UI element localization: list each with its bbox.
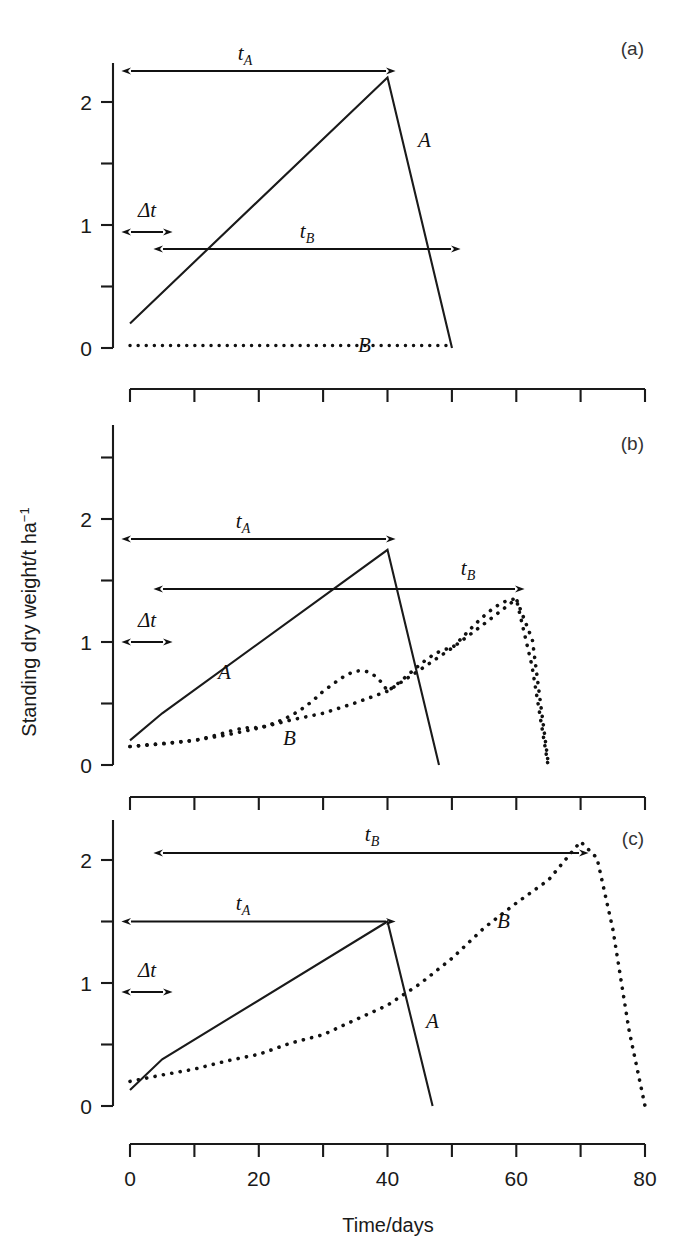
panel-a-label-B: B — [358, 333, 371, 357]
panel-c-xtick-0: 0 — [124, 1167, 136, 1190]
panel-c-label-B: B — [497, 909, 510, 933]
panel-b-ytick-0: 0 — [80, 754, 92, 777]
figure-background — [0, 0, 696, 1254]
y-axis-title: Standing dry weight/t ha−1 — [17, 507, 40, 736]
panel-a-label: (a) — [621, 38, 644, 59]
panel-b-label-A: A — [216, 660, 231, 684]
panel-a-label-A: A — [416, 128, 431, 152]
panel-c-label: (c) — [622, 828, 644, 849]
three-panel-growth-figure: Standing dry weight/t ha−1 (a) 0 1 2 — [0, 0, 696, 1254]
x-axis-title: Time/days — [342, 1214, 434, 1236]
figure-container: Standing dry weight/t ha−1 (a) 0 1 2 — [0, 0, 696, 1254]
panel-a-delta-t-label: Δt — [137, 198, 157, 222]
panel-b-ytick-1: 1 — [80, 631, 92, 654]
panel-a-ytick-2: 2 — [80, 91, 92, 114]
panel-c-delta-t-label: Δt — [137, 958, 157, 982]
panel-b-label-B: B — [283, 726, 296, 750]
panel-b-ytick-2: 2 — [80, 508, 92, 531]
panel-c-ytick-0: 0 — [80, 1095, 92, 1118]
panel-a-ytick-0: 0 — [80, 337, 92, 360]
panel-c-ytick-1: 1 — [80, 972, 92, 995]
y-axis-title-group: Standing dry weight/t ha−1 — [17, 507, 40, 736]
panel-c-xtick-60: 60 — [505, 1167, 528, 1190]
panel-c-ytick-2: 2 — [80, 849, 92, 872]
panel-b-delta-t-label: Δt — [137, 608, 157, 632]
panel-c-xtick-80: 80 — [633, 1167, 656, 1190]
panel-c-xtick-20: 20 — [247, 1167, 270, 1190]
panel-c-label-A: A — [424, 1009, 439, 1033]
panel-b-label: (b) — [621, 433, 644, 454]
panel-c-xtick-40: 40 — [376, 1167, 399, 1190]
panel-a-ytick-1: 1 — [80, 214, 92, 237]
